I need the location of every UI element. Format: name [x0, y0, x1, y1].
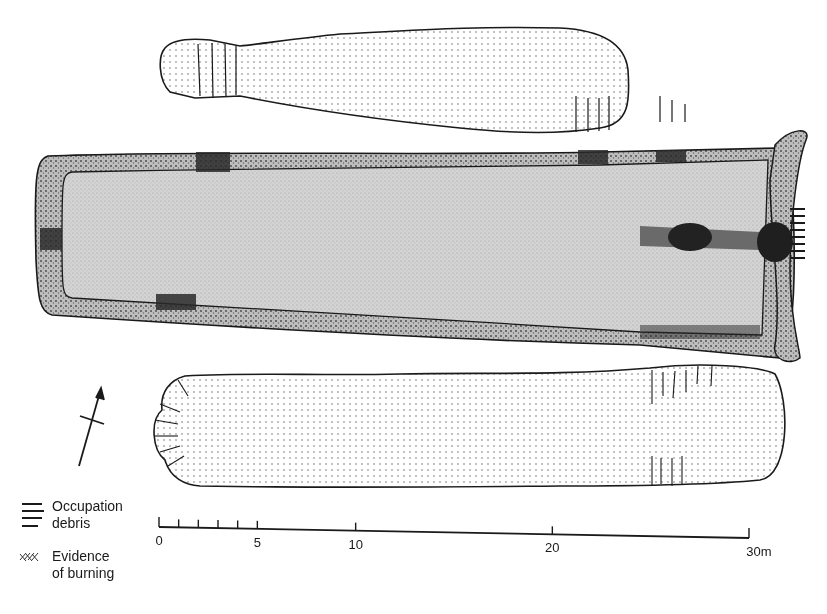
legend-label-line: Occupation	[52, 498, 123, 515]
central-building	[35, 131, 807, 362]
scale-bar	[159, 517, 749, 538]
scale-bar-line	[159, 527, 749, 538]
legend-label-line: debris	[52, 515, 123, 532]
legend-label-line: Evidence	[52, 548, 114, 565]
scale-label-5: 5	[254, 535, 261, 550]
scale-label-20: 20	[545, 540, 559, 555]
burning-hatch-icon	[20, 553, 38, 561]
north-pit-outline	[160, 27, 628, 132]
legend-evidence-of-burning: Evidence of burning	[52, 548, 114, 582]
legend-label-line: of burning	[52, 565, 114, 582]
hearth-pit	[668, 223, 712, 251]
north-pit	[160, 27, 685, 132]
scale-label-10: 10	[348, 537, 362, 552]
scale-label-0: 0	[155, 533, 162, 548]
legend-occupation-debris: Occupation debris	[52, 498, 123, 532]
north-arrow-icon	[79, 388, 104, 466]
site-plan	[0, 0, 827, 614]
south-pit-outline	[154, 365, 785, 487]
scale-label-30: 30m	[746, 544, 771, 559]
south-pit	[154, 365, 785, 487]
occupation-debris-icon	[22, 504, 44, 526]
